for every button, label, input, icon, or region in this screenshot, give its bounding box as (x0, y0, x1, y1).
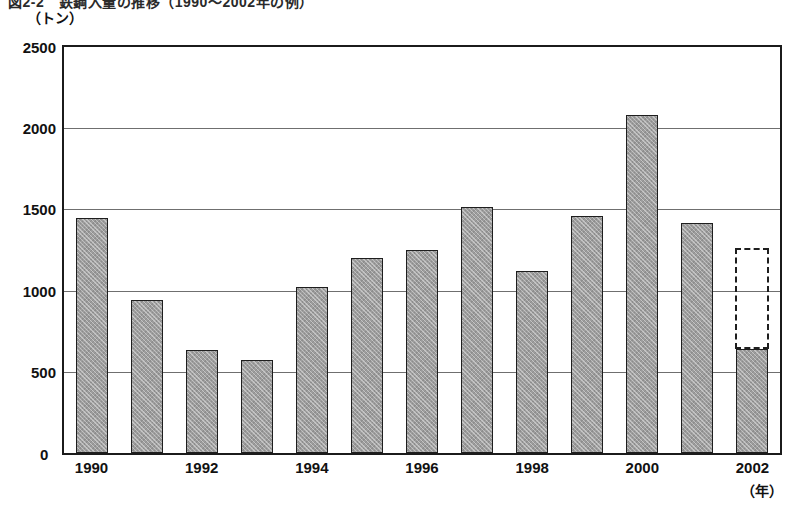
bar-1993 (241, 360, 273, 453)
bar-2000 (626, 115, 658, 453)
bar-2002 (736, 349, 768, 453)
bar-1990 (76, 218, 108, 453)
y-axis: 5001000150020002500 (0, 45, 56, 455)
bar-1999 (571, 216, 603, 453)
x-axis-tick-label: 1994 (295, 459, 328, 476)
plot-area (62, 45, 782, 455)
y-axis-tick-label: 1500 (23, 201, 56, 218)
bar-1991 (131, 300, 163, 453)
y-axis-tick-label: 1000 (23, 282, 56, 299)
figure-bar-chart: 図2-2 鉄鋼入量の推移（1990～2002年の例） （トン） 50010001… (0, 0, 805, 506)
x-axis-tick-label: 1996 (405, 459, 438, 476)
gridline (64, 209, 780, 210)
bar-1992 (186, 350, 218, 453)
plot-inner (64, 47, 780, 453)
gridline (64, 128, 780, 129)
bar-1995 (351, 258, 383, 453)
bar-1998 (516, 271, 548, 453)
bar-1997 (461, 207, 493, 453)
x-axis-tick-label: 1992 (185, 459, 218, 476)
bar-1994 (296, 287, 328, 453)
x-axis: 1990199219941996199820002002 (62, 459, 782, 485)
bar-2001 (681, 223, 713, 453)
y-axis-tick-label: 500 (31, 363, 56, 380)
x-axis-unit-label: （年） (741, 480, 783, 500)
x-axis-tick-label: 1998 (515, 459, 548, 476)
x-axis-tick-label: 2002 (736, 459, 769, 476)
x-axis-tick-label: 2000 (626, 459, 659, 476)
x-axis-tick-label: 1990 (75, 459, 108, 476)
bar-1996 (406, 250, 438, 453)
y-axis-unit-label: （トン） (27, 7, 83, 27)
y-axis-tick-label: 2500 (23, 39, 56, 56)
y-axis-tick-label: 2000 (23, 120, 56, 137)
y-axis-zero-label: 0 (40, 446, 48, 463)
bar-projection-2002 (735, 248, 769, 350)
